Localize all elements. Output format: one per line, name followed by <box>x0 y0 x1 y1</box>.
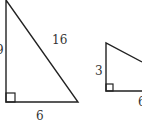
large-right-triangle <box>6 0 78 102</box>
small-base-label: 6 <box>138 95 142 109</box>
large-leg-label: 9 <box>0 43 4 57</box>
diagram-canvas: 9 16 6 3 6 <box>0 0 142 122</box>
right-angle-marker <box>6 93 15 102</box>
large-hypotenuse-label: 16 <box>52 33 67 47</box>
right-angle-marker <box>106 84 113 91</box>
small-right-triangle <box>106 43 142 91</box>
large-base-label: 6 <box>36 109 44 122</box>
small-leg-label: 3 <box>95 64 103 78</box>
